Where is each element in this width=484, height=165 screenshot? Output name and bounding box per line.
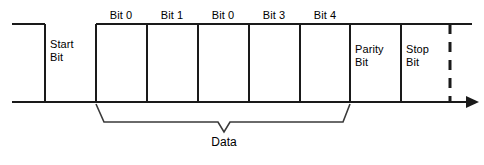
bit-label-bit-0-b: Bit 0 [198,9,248,22]
bit-label-bit-0-a: Bit 0 [96,9,146,22]
field-label-start-bit: Start Bit [50,38,74,64]
serial-frame-diagram: Bit 0 Bit 1 Bit 0 Bit 3 Bit 4 Start Bit … [0,0,484,165]
bit-label-bit-1: Bit 1 [147,9,197,22]
bit-label-bit-4: Bit 4 [300,9,350,22]
time-axis-arrowhead [466,96,479,108]
data-group-brace [96,104,350,132]
field-label-stop-bit: Stop Bit [406,43,429,69]
data-group-label: Data [174,136,274,149]
bit-label-bit-3: Bit 3 [249,9,299,22]
field-label-parity-bit: Parity Bit [355,43,384,69]
